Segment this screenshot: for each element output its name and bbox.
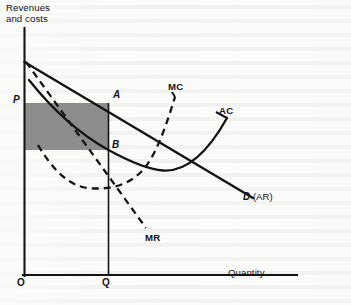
x-axis-title: Quantity (228, 268, 265, 279)
chart-canvas (0, 0, 351, 305)
point-label-b: B (112, 139, 119, 150)
economics-diagram-figure: Revenues and costs Quantity MC AC MR D (… (0, 0, 351, 305)
marginal-revenue-curve-label: MR (145, 233, 160, 244)
average-cost-curve-label: AC (219, 106, 233, 117)
demand-curve-label-ar: (AR) (250, 191, 272, 202)
y-axis-title-line-2: and costs (6, 14, 50, 25)
quantity-axis-marker-q: Q (102, 277, 110, 288)
origin-marker-o: O (17, 277, 25, 288)
y-axis-title: Revenues and costs (6, 3, 50, 24)
point-label-a: A (113, 89, 120, 100)
price-axis-marker-p: P (13, 94, 20, 105)
marginal-cost-curve-label: MC (168, 82, 183, 93)
demand-curve-label: D (AR) (243, 191, 273, 203)
mc-label-leader (172, 92, 175, 97)
